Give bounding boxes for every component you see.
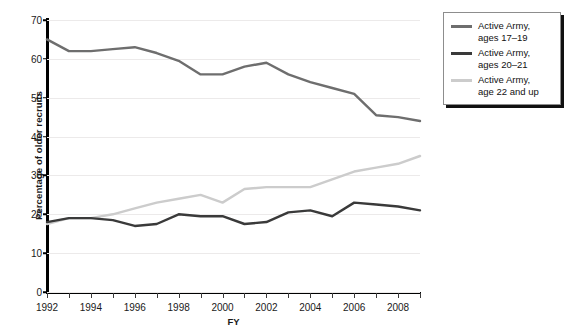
x-tick-mark	[157, 293, 158, 298]
x-tick-label: 2004	[299, 302, 321, 313]
chart-figure: Percentage of older recruits 01020304050…	[0, 0, 570, 334]
x-tick-label: 2002	[255, 302, 277, 313]
x-tick-mark	[310, 293, 311, 298]
plot-area: 010203040506070 199219941996199820002002…	[47, 20, 420, 292]
y-tick-label: 10	[31, 248, 42, 259]
gridline	[47, 292, 420, 293]
x-tick-label: 2000	[211, 302, 233, 313]
legend-label-age-22-and-up: Active Army,age 22 and up	[478, 74, 539, 97]
x-tick-label: 2008	[387, 302, 409, 313]
series-line	[47, 156, 420, 224]
x-tick-mark	[376, 293, 377, 298]
x-tick-label: 1996	[124, 302, 146, 313]
legend-item-age-22-and-up[interactable]: Active Army,age 22 and up	[451, 74, 554, 97]
chart-legend: Active Army,ages 17–19 Active Army,ages …	[443, 12, 561, 105]
legend-swatch-ages-20-21	[451, 52, 472, 55]
legend-label-ages-17-19: Active Army,ages 17–19	[478, 20, 530, 43]
series-line	[47, 39, 420, 121]
x-tick-label: 1998	[168, 302, 190, 313]
y-tick-label: 20	[31, 209, 42, 220]
legend-item-ages-17-19[interactable]: Active Army,ages 17–19	[451, 20, 554, 43]
x-tick-label: 1994	[80, 302, 102, 313]
x-tick-mark	[332, 293, 333, 298]
x-tick-mark	[91, 293, 92, 298]
y-tick-label: 40	[31, 131, 42, 142]
x-tick-mark	[288, 293, 289, 298]
series-lines	[47, 20, 420, 292]
x-tick-mark	[201, 293, 202, 298]
legend-label-ages-20-21: Active Army,ages 20–21	[478, 47, 530, 70]
legend-item-ages-20-21[interactable]: Active Army,ages 20–21	[451, 47, 554, 70]
x-tick-mark	[223, 293, 224, 298]
x-axis-title: FY	[47, 316, 420, 327]
x-tick-mark	[179, 293, 180, 298]
y-tick-label: 60	[31, 53, 42, 64]
x-tick-mark	[47, 293, 48, 298]
x-tick-label: 1992	[36, 302, 58, 313]
x-tick-mark	[113, 293, 114, 298]
y-tick-label: 0	[36, 287, 42, 298]
x-tick-mark	[266, 293, 267, 298]
y-tick-label: 70	[31, 15, 42, 26]
x-tick-mark	[69, 293, 70, 298]
x-tick-mark	[354, 293, 355, 298]
y-tick-label: 50	[31, 92, 42, 103]
x-tick-mark	[244, 293, 245, 298]
x-tick-label: 2006	[343, 302, 365, 313]
x-tick-mark	[420, 293, 421, 298]
legend-swatch-age-22-and-up	[451, 79, 472, 82]
x-tick-mark	[398, 293, 399, 298]
y-tick-label: 30	[31, 170, 42, 181]
series-line	[47, 203, 420, 226]
y-axis-title: Percentage of older recruits	[33, 26, 44, 286]
x-tick-mark	[135, 293, 136, 298]
legend-swatch-ages-17-19	[451, 25, 472, 28]
